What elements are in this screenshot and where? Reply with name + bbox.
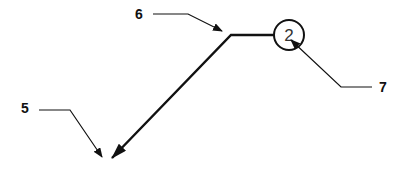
bent-rod (112, 35, 274, 158)
item-balloon: 2 (274, 20, 304, 50)
callout-7-label: 7 (379, 79, 387, 95)
callout-6: 6 (135, 6, 222, 31)
callout-7: 7 (291, 40, 387, 95)
callout-6-leader (153, 14, 222, 31)
callout-5: 5 (21, 100, 102, 157)
callout-5-leader (39, 110, 102, 157)
callout-6-label: 6 (135, 6, 143, 22)
part-diagram: 2 6 7 5 (0, 0, 410, 176)
callout-5-label: 5 (21, 100, 29, 116)
item-number: 2 (284, 26, 293, 45)
diagram-canvas: 2 6 7 5 (0, 0, 410, 176)
callout-7-leader (291, 40, 372, 87)
rod-line (112, 35, 274, 158)
